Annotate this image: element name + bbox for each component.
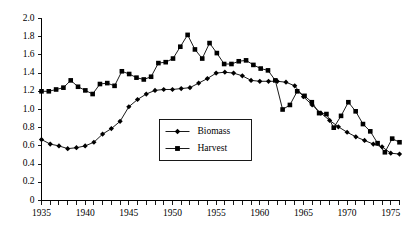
y-tick-label: 0.6 — [23, 140, 35, 150]
data-point-marker — [383, 150, 388, 155]
data-point-marker — [331, 125, 336, 130]
data-point-marker — [134, 75, 139, 80]
data-point-marker — [141, 77, 146, 82]
plot-background — [0, 0, 413, 233]
data-point-marker — [120, 69, 125, 74]
data-point-marker — [47, 89, 52, 94]
x-tick-label: 1975 — [381, 208, 400, 218]
data-point-marker — [375, 141, 380, 146]
data-point-marker — [112, 84, 117, 89]
data-point-marker — [397, 140, 402, 145]
x-tick-label: 1960 — [250, 208, 269, 218]
x-tick-label: 1935 — [32, 208, 51, 218]
data-point-marker — [368, 129, 373, 134]
data-point-marker — [39, 89, 44, 94]
x-tick-label: 1955 — [207, 208, 226, 218]
data-point-marker — [54, 87, 59, 92]
data-point-marker — [185, 33, 190, 38]
data-point-marker — [61, 85, 66, 90]
chart-legend[interactable]: BiomassHarvest — [160, 120, 252, 161]
data-point-marker — [222, 62, 227, 67]
data-point-marker — [390, 136, 395, 141]
data-point-marker — [317, 111, 322, 116]
data-point-marker — [163, 60, 168, 65]
data-point-marker — [288, 103, 293, 108]
y-tick-label: 1.4 — [23, 67, 35, 77]
x-tick-label: 1945 — [119, 208, 138, 218]
x-tick-label: 1950 — [163, 208, 182, 218]
y-tick-label: 0.4 — [23, 158, 35, 168]
y-tick-label: 0.8 — [23, 122, 35, 132]
data-point-marker — [258, 66, 263, 71]
y-tick-label: 1.2 — [23, 85, 35, 95]
y-tick-label: 0 — [30, 195, 35, 205]
data-point-marker — [90, 92, 95, 97]
data-point-marker — [346, 100, 351, 105]
data-point-marker — [207, 41, 212, 46]
data-point-marker — [127, 72, 132, 77]
data-point-marker — [280, 107, 285, 112]
data-point-marker — [251, 63, 256, 68]
data-point-marker — [229, 62, 234, 67]
legend-label: Biomass — [198, 126, 231, 136]
data-point-marker — [266, 68, 271, 73]
data-point-marker — [200, 56, 205, 61]
y-tick-label: 1.8 — [23, 31, 35, 41]
data-point-marker — [310, 100, 315, 105]
y-tick-label: 2.0 — [23, 13, 35, 23]
y-tick-label: 0.2 — [23, 176, 35, 186]
data-point-marker — [302, 94, 307, 99]
data-point-marker — [361, 122, 366, 127]
data-point-marker — [83, 88, 88, 93]
data-point-marker — [339, 114, 344, 119]
data-point-marker — [244, 58, 249, 63]
x-tick-label: 1970 — [338, 208, 357, 218]
data-point-marker — [105, 81, 110, 86]
chart-page: 00.20.40.60.81.01.21.41.61.82.0 19351940… — [0, 0, 413, 233]
y-tick-label: 1.0 — [23, 104, 35, 114]
legend-label: Harvest — [198, 143, 228, 153]
data-point-marker — [215, 51, 220, 56]
data-point-marker — [273, 78, 278, 83]
data-point-marker — [353, 109, 358, 114]
x-tick-label: 1940 — [76, 208, 95, 218]
data-point-marker — [175, 146, 180, 151]
data-point-marker — [149, 74, 154, 79]
data-point-marker — [68, 78, 73, 83]
y-tick-label: 1.6 — [23, 49, 35, 59]
x-tick-label: 1965 — [294, 208, 313, 218]
data-point-marker — [295, 89, 300, 94]
data-point-marker — [324, 112, 329, 117]
data-point-marker — [171, 56, 176, 61]
data-point-marker — [156, 61, 161, 66]
data-point-marker — [178, 44, 183, 49]
line-chart: 00.20.40.60.81.01.21.41.61.82.0 19351940… — [0, 0, 413, 233]
data-point-marker — [76, 84, 81, 89]
data-point-marker — [236, 59, 241, 64]
data-point-marker — [193, 47, 198, 52]
data-point-marker — [98, 82, 103, 87]
